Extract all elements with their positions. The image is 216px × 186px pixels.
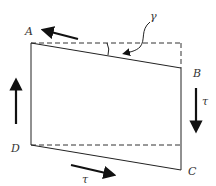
original-shape-dashed [31,43,181,145]
gamma-leader-arrow [126,22,150,53]
edge-dc [31,145,181,170]
label-c: C [188,166,196,177]
deformed-shape [31,43,181,170]
label-gamma: γ [150,11,157,22]
label-a: A [25,26,33,37]
label-tau-bottom: τ [82,174,88,185]
label-tau-right: τ [202,96,208,107]
label-d: D [11,143,20,154]
shear-arrow-bottom [71,165,110,174]
gamma-angle-arc [107,43,109,55]
shear-arrow-top [47,31,78,39]
edge-ab [31,43,181,68]
label-b: B [193,68,201,79]
